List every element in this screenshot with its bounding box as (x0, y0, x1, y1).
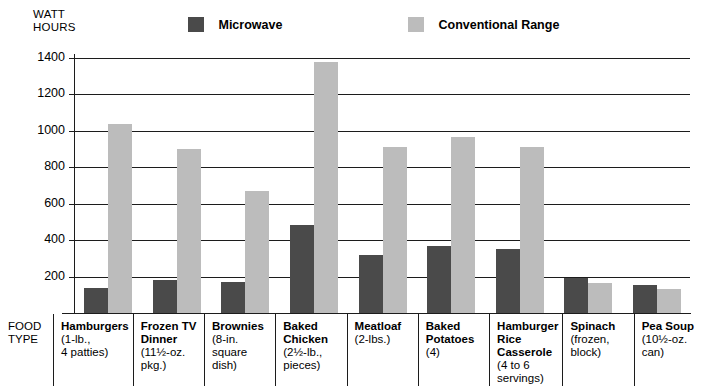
bar-group (623, 40, 692, 313)
bar-group (74, 40, 143, 313)
bar-group (211, 40, 280, 313)
y-axis-title: WATT HOURS (33, 8, 76, 33)
category-label-row: FOOD TYPE Hamburgers(1-lb., 4 patties)Fr… (0, 314, 705, 386)
category-cell: Pea Soup(10½-oz. can) (634, 314, 705, 386)
category-cell: Hamburgers(1-lb., 4 patties) (53, 314, 133, 386)
bar (177, 149, 201, 313)
bar (383, 147, 407, 313)
legend-label-microwave: Microwave (218, 18, 282, 32)
bar-group (143, 40, 212, 313)
bar (657, 289, 681, 313)
category-cell: Frozen TV Dinner(11½-oz. pkg.) (133, 314, 204, 386)
x-axis-title: FOOD TYPE (0, 314, 53, 386)
legend-label-conventional-range: Conventional Range (438, 18, 559, 32)
category-cells: Hamburgers(1-lb., 4 patties)Frozen TV Di… (53, 314, 705, 386)
bar-group (417, 40, 486, 313)
category-name: Pea Soup (642, 320, 701, 333)
category-cell: Spinach(frozen, block) (562, 314, 633, 386)
legend-item-conventional-range: Conventional Range (408, 17, 559, 32)
category-detail: (11½-oz. pkg.) (141, 346, 200, 372)
category-detail: (frozen, block) (570, 333, 629, 359)
category-detail: (4 to 6 servings) (497, 359, 558, 385)
category-cell: Hamburger Rice Casserole(4 to 6 servings… (489, 314, 562, 386)
plot-area: 200400600800100012001400 (74, 40, 691, 314)
bar (245, 191, 269, 313)
bar (314, 62, 338, 313)
bar (290, 225, 314, 313)
watt-hours-bar-chart: WATT HOURS Microwave Conventional Range … (0, 0, 705, 386)
bar-group (348, 40, 417, 313)
category-name: Brownies (212, 320, 271, 333)
bar-group (485, 40, 554, 313)
y-axis-tick-label: 600 (44, 196, 65, 210)
category-name: Frozen TV Dinner (141, 320, 200, 346)
bar (520, 147, 544, 313)
category-detail: (1-lb., 4 patties) (61, 333, 129, 359)
y-axis-tick-label: 1000 (37, 123, 65, 137)
y-axis-tick-label: 200 (44, 269, 65, 283)
category-detail: (10½-oz. can) (642, 333, 701, 359)
category-detail: (2-lbs.) (355, 333, 414, 346)
bar-group (554, 40, 623, 313)
category-name: Meatloaf (355, 320, 414, 333)
bar (153, 280, 177, 313)
category-detail: (4) (426, 346, 485, 359)
bar (451, 137, 475, 313)
bar (427, 246, 451, 313)
category-name: Hamburgers (61, 320, 129, 333)
bar-group (280, 40, 349, 313)
legend-item-microwave: Microwave (188, 17, 282, 32)
category-name: Spinach (570, 320, 629, 333)
bar (588, 283, 612, 313)
bar (221, 282, 245, 313)
bar (633, 285, 657, 313)
y-axis-tick-label: 1200 (37, 86, 65, 100)
category-detail: (2½-lb., pieces) (283, 346, 342, 372)
category-cell: Brownies(8-in. square dish) (204, 314, 275, 386)
category-cell: Meatloaf(2-lbs.) (347, 314, 418, 386)
bar (359, 255, 383, 313)
category-name: Baked Chicken (283, 320, 342, 346)
y-axis-tick-label: 400 (44, 232, 65, 246)
category-name: Baked Potatoes (426, 320, 485, 346)
bar (564, 278, 588, 313)
y-axis-tick-label: 1400 (37, 50, 65, 64)
legend-swatch-microwave (188, 17, 204, 32)
y-axis-tick-label: 800 (44, 159, 65, 173)
bar (496, 249, 520, 313)
bar (108, 124, 132, 313)
category-cell: Baked Potatoes(4) (418, 314, 489, 386)
category-name: Hamburger Rice Casserole (497, 320, 558, 359)
category-cell: Baked Chicken(2½-lb., pieces) (275, 314, 346, 386)
bar (84, 288, 108, 314)
bar-groups (74, 40, 691, 313)
legend-swatch-conventional-range (408, 17, 424, 32)
category-detail: (8-in. square dish) (212, 333, 271, 372)
